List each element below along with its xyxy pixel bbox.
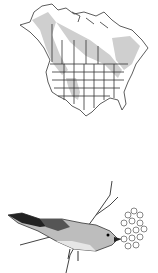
range-map bbox=[0, 0, 158, 125]
bird-illustration bbox=[0, 175, 158, 273]
bird-body bbox=[8, 213, 122, 261]
berry-cluster bbox=[121, 208, 147, 249]
